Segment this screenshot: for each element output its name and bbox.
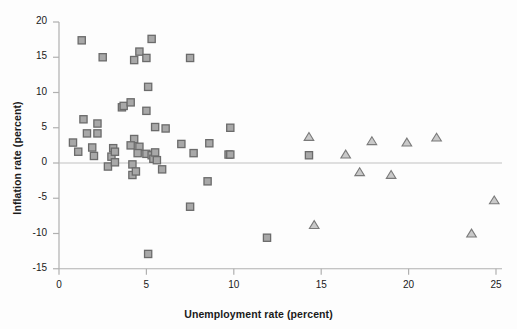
data-point-square	[190, 150, 197, 157]
data-point-square	[78, 37, 85, 44]
data-point-triangle	[432, 133, 442, 141]
data-point-triangle	[309, 221, 319, 229]
data-point-square	[89, 144, 96, 151]
data-point-square	[131, 56, 138, 63]
data-point-square	[80, 116, 87, 123]
y-axis-tick-label: -5	[7, 191, 47, 202]
x-axis-tick-label: 15	[301, 279, 341, 290]
data-point-square	[153, 157, 160, 164]
y-axis-tick-label: -10	[7, 227, 47, 238]
data-point-square	[90, 152, 97, 159]
data-point-square	[94, 130, 101, 137]
y-axis-tick-label: 5	[7, 121, 47, 132]
data-point-square	[136, 48, 143, 55]
data-point-square	[227, 124, 234, 131]
data-point-triangle	[355, 168, 365, 176]
y-axis-tick-label: 15	[7, 50, 47, 61]
data-point-square	[206, 140, 213, 147]
y-axis-tick-label: -15	[7, 262, 47, 273]
data-point-square	[263, 234, 270, 241]
data-point-square	[120, 102, 127, 109]
data-point-square	[187, 203, 194, 210]
y-axis-tick-label: 10	[7, 86, 47, 97]
data-point-square	[132, 168, 139, 175]
data-point-square	[227, 151, 234, 158]
y-axis-tick-label: 0	[7, 156, 47, 167]
data-point-square	[204, 178, 211, 185]
data-point-square	[69, 139, 76, 146]
data-point-square	[134, 150, 141, 157]
data-point-square	[99, 54, 106, 61]
data-point-square	[162, 125, 169, 132]
x-axis-tick-label: 5	[126, 279, 166, 290]
data-point-square	[159, 166, 166, 173]
data-point-square	[111, 148, 118, 155]
data-point-square	[152, 123, 159, 130]
data-point-triangle	[386, 171, 396, 179]
data-point-square	[111, 159, 118, 166]
data-point-triangle	[489, 196, 499, 204]
data-point-triangle	[341, 150, 351, 158]
data-point-square	[129, 161, 136, 168]
x-axis-tick-label: 25	[476, 279, 516, 290]
data-point-square	[152, 149, 159, 156]
x-axis-title: Unemployment rate (percent)	[0, 308, 517, 320]
data-point-triangle	[402, 138, 412, 146]
scatter-chart: Unemployment rate (percent) Inflation ra…	[0, 0, 517, 329]
data-point-square	[75, 148, 82, 155]
data-point-square	[145, 250, 152, 257]
data-point-square	[143, 107, 150, 114]
data-point-square	[145, 83, 152, 90]
data-point-square	[187, 54, 194, 61]
data-point-square	[94, 120, 101, 127]
data-point-square	[127, 142, 134, 149]
x-axis-tick-label: 10	[214, 279, 254, 290]
x-axis-tick-label: 0	[39, 279, 79, 290]
data-point-square	[178, 140, 185, 147]
data-point-square	[143, 54, 150, 61]
x-axis-tick-label: 20	[389, 279, 429, 290]
data-point-square	[305, 152, 312, 159]
data-point-triangle	[467, 229, 477, 237]
data-point-square	[127, 99, 134, 106]
data-point-square	[83, 130, 90, 137]
data-point-square	[148, 35, 155, 42]
data-point-triangle	[367, 137, 377, 145]
y-axis-tick-label: 20	[7, 15, 47, 26]
data-point-square	[104, 163, 111, 170]
data-point-triangle	[304, 133, 314, 141]
